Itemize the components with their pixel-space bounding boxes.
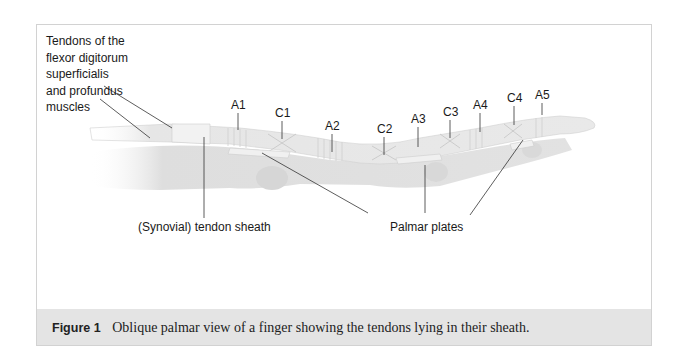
- palmar-plates-label: Palmar plates: [390, 219, 463, 235]
- pulley-label-a4: A4: [473, 97, 488, 113]
- pulley-label-a2: A2: [325, 118, 340, 134]
- pulley-label-c2: C2: [377, 121, 392, 137]
- tendons-label: Tendons of the flexor digitorum superfic…: [46, 33, 166, 116]
- pulley-label-a3: A3: [411, 111, 426, 127]
- pulley-label-c3: C3: [443, 104, 458, 120]
- pulley-label-c1: C1: [275, 105, 290, 121]
- pulley-label-c4: C4: [507, 90, 522, 106]
- tendons-label-line: superficialis: [46, 66, 166, 83]
- sheath-label: (Synovial) tendon sheath: [138, 219, 271, 235]
- tendons-label-line: muscles: [46, 99, 166, 116]
- tendons-label-line: Tendons of the: [46, 33, 166, 50]
- figure-number: Figure 1: [52, 321, 101, 335]
- figure-caption: Figure 1 Oblique palmar view of a finger…: [52, 320, 529, 336]
- caption-text: Oblique palmar view of a finger showing …: [112, 320, 529, 335]
- tendons-label-line: flexor digitorum: [46, 50, 166, 67]
- pulley-label-a5: A5: [535, 87, 550, 103]
- pulley-label-a1: A1: [231, 97, 246, 113]
- tendons-label-line: and profundus: [46, 83, 166, 100]
